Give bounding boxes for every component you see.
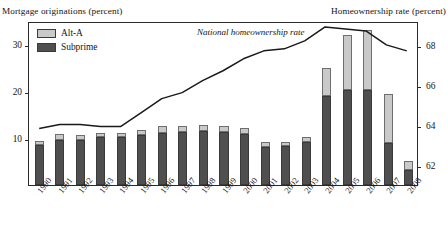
left-axis-tick	[25, 46, 29, 47]
right-axis-tick-label: 62	[426, 161, 448, 171]
homeownership-line	[29, 23, 417, 185]
left-axis-tick-label: 30	[2, 40, 22, 50]
plot-area: Alt-A Subprime National homeownership ra…	[28, 22, 418, 186]
left-axis-tick-label: 10	[2, 134, 22, 144]
right-axis-tick	[417, 47, 421, 48]
right-axis-tick-label: 64	[426, 121, 448, 131]
right-axis-tick	[417, 87, 421, 88]
right-axis-caption: Homeownership rate (percent)	[331, 6, 446, 16]
right-axis-tick-label: 68	[426, 41, 448, 51]
homeownership-line-path	[39, 27, 407, 128]
right-axis-tick	[417, 167, 421, 168]
chart-figure: Mortgage originations (percent) Homeowne…	[0, 0, 448, 238]
left-axis-caption: Mortgage originations (percent)	[2, 6, 122, 16]
left-axis-tick-label: 20	[2, 87, 22, 97]
right-axis-tick	[417, 127, 421, 128]
right-axis-tick-label: 66	[426, 81, 448, 91]
left-axis-tick	[25, 140, 29, 141]
plot-inner	[29, 23, 417, 185]
left-axis-tick	[25, 93, 29, 94]
